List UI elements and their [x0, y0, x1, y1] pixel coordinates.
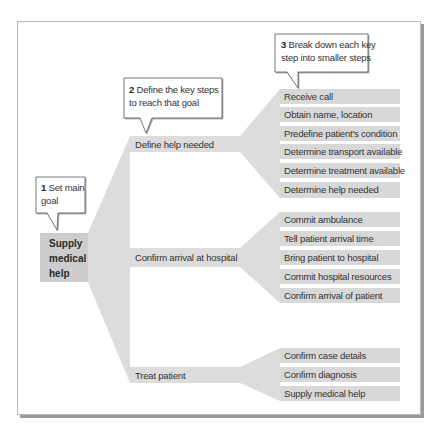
substep-label: Determine help needed [284, 182, 379, 197]
callout-3-line2: step into smaller steps [281, 52, 371, 63]
substep-label: Supply medical help [284, 386, 365, 401]
substep-label: Receive call [284, 89, 333, 104]
substep-label: Confirm case details [284, 348, 366, 363]
callout-1-line1: Set main [49, 182, 85, 193]
callout-2-line1: Define the key steps [137, 84, 219, 95]
main-goal-line-3: help [49, 268, 70, 279]
substep-label: Predefine patient's condition [284, 126, 397, 141]
substep-label: Confirm diagnosis [284, 367, 357, 382]
callout-2-line2: to reach that goal [129, 97, 199, 108]
substep-label: Confirm arrival of patient [284, 288, 382, 303]
main-goal-label: Supply medical help [49, 236, 86, 281]
callout-3-line1: Break down each key [289, 39, 376, 50]
funnel-3 [240, 348, 280, 401]
funnel-2 [240, 212, 280, 303]
substep-label: Commit ambulance [284, 212, 363, 227]
funnel-1 [240, 89, 280, 198]
callout-1-number: 1 [41, 182, 46, 193]
key-step-label: Treat patient [135, 368, 185, 383]
substep-label: Determine treatment available [284, 163, 405, 178]
substep-label: Bring patient to hospital [284, 250, 378, 265]
main-goal-line-2: medical [49, 253, 86, 264]
key-step-label: Define help needed [135, 137, 214, 152]
substep-label: Tell patient arrival time [284, 231, 374, 246]
callout-1-line2: goal [41, 195, 58, 206]
callout-3-number: 3 [281, 39, 286, 50]
substep-label: Obtain name, location [284, 107, 372, 122]
main-funnel [88, 136, 130, 383]
callout-2: 2 Define the key steps to reach that goa… [129, 83, 219, 109]
callout-1: 1 Set main goal [41, 181, 84, 207]
substep-label: Determine transport available [284, 144, 402, 159]
callout-3: 3 Break down each key step into smaller … [281, 38, 376, 64]
key-step-label: Confirm arrival at hospital [135, 250, 237, 265]
diagram-shapes [0, 0, 442, 430]
substep-label: Commit hospital resources [284, 269, 391, 284]
main-goal-line-1: Supply [49, 238, 82, 249]
callout-2-number: 2 [129, 84, 134, 95]
